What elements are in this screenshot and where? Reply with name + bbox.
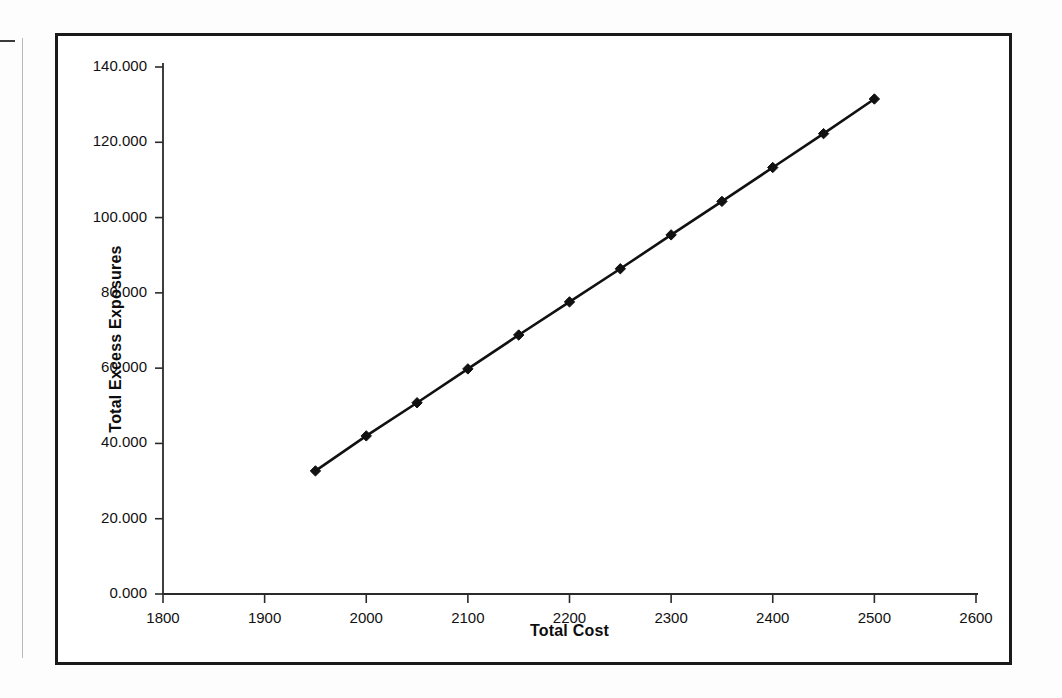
chart-frame bbox=[55, 33, 1012, 665]
y-tick-label: 140.000 bbox=[55, 57, 147, 74]
y-tick-label: 100.000 bbox=[55, 208, 147, 225]
scan-horizontal-rule bbox=[0, 40, 15, 42]
y-tick-label: 0.000 bbox=[55, 584, 147, 601]
y-tick-label: 120.000 bbox=[55, 132, 147, 149]
y-tick-label: 40.000 bbox=[55, 433, 147, 450]
y-tick-label: 20.000 bbox=[55, 509, 147, 526]
scan-margin-artifacts bbox=[0, 0, 60, 698]
y-axis-title: Total Excess Exposures bbox=[107, 209, 125, 469]
scan-vertical-rule bbox=[22, 38, 23, 658]
y-tick-label: 80.000 bbox=[55, 283, 147, 300]
y-tick-label: 60.000 bbox=[55, 358, 147, 375]
x-axis-title: Total Cost bbox=[163, 622, 976, 640]
